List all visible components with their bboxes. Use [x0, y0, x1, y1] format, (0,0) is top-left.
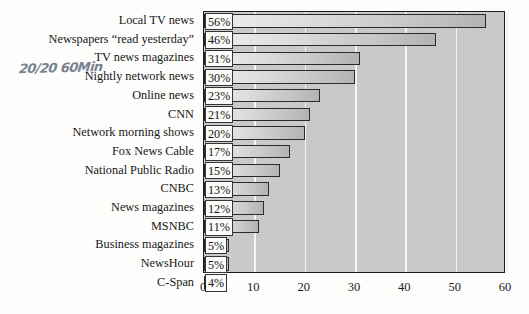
- category-label: News magazines: [111, 198, 194, 217]
- gridline: [506, 12, 508, 272]
- category-label: CNN: [168, 105, 194, 124]
- category-label: Online news: [132, 86, 194, 105]
- category-label: Nightly network news: [85, 67, 194, 86]
- x-tick-label: 20: [297, 277, 310, 297]
- bar-row: 31%: [204, 49, 506, 68]
- category-label: Network morning shows: [72, 123, 194, 142]
- category-label: Fox News Cable: [112, 142, 194, 161]
- bar-row: 11%: [204, 218, 506, 237]
- bars-layer: 56%46%31%30%23%21%20%17%15%13%12%11%5%5%…: [204, 12, 504, 272]
- x-tick-label: 30: [348, 277, 361, 297]
- category-label: NewsHour: [141, 254, 194, 273]
- bar-chart-figure: 20/20 60Min Local TV newsNewspapers “rea…: [0, 0, 529, 314]
- bar-row: 12%: [204, 199, 506, 218]
- plot-area: 56%46%31%30%23%21%20%17%15%13%12%11%5%5%…: [203, 11, 505, 273]
- bar-row: 20%: [204, 124, 506, 143]
- bar-value-label: 5%: [205, 237, 228, 254]
- x-tick-label: 10: [247, 277, 260, 297]
- category-label: National Public Radio: [85, 161, 194, 180]
- bar-row: 15%: [204, 162, 506, 181]
- bar-value-label: 56%: [205, 13, 234, 30]
- bar-value-label: 30%: [205, 69, 234, 86]
- bar-row: 17%: [204, 143, 506, 162]
- bar-value-label: 31%: [205, 50, 234, 67]
- bar: [204, 33, 436, 46]
- x-tick-label: 50: [448, 277, 461, 297]
- bar-value-label: 46%: [205, 31, 234, 48]
- bar-value-label: 17%: [205, 143, 234, 160]
- category-label: Local TV news: [119, 11, 194, 30]
- bar-value-label: 13%: [205, 181, 234, 198]
- bar-row: 56%: [204, 12, 506, 31]
- bar-value-label: 11%: [205, 218, 233, 235]
- bar-row: 5%: [204, 236, 506, 255]
- x-tick-label: 0: [200, 277, 206, 297]
- category-label: MSNBC: [151, 217, 194, 236]
- x-tick-label: 60: [499, 277, 512, 297]
- category-label: TV news magazines: [95, 48, 195, 67]
- category-label: CNBC: [161, 179, 195, 198]
- bar-value-label: 5%: [205, 256, 228, 273]
- bar-row: 5%: [204, 255, 506, 274]
- x-axis-tick-labels: 0102030405060: [203, 277, 505, 299]
- bar-value-label: 20%: [205, 125, 234, 142]
- bar-value-label: 12%: [205, 200, 234, 217]
- category-label-column: Local TV newsNewspapers “read yesterday”…: [0, 11, 198, 273]
- bar-row: 23%: [204, 87, 506, 106]
- bar: [204, 14, 486, 27]
- bar-row: 13%: [204, 180, 506, 199]
- category-label: Business magazines: [95, 235, 194, 254]
- category-label: C-Span: [157, 273, 194, 292]
- bar-value-label: 15%: [205, 162, 234, 179]
- bar-row: 30%: [204, 68, 506, 87]
- x-tick-label: 40: [398, 277, 411, 297]
- category-label: Newspapers “read yesterday”: [49, 30, 194, 49]
- bar-row: 21%: [204, 106, 506, 125]
- bar-value-label: 23%: [205, 87, 234, 104]
- bar-row: 46%: [204, 31, 506, 50]
- bar-value-label: 21%: [205, 106, 234, 123]
